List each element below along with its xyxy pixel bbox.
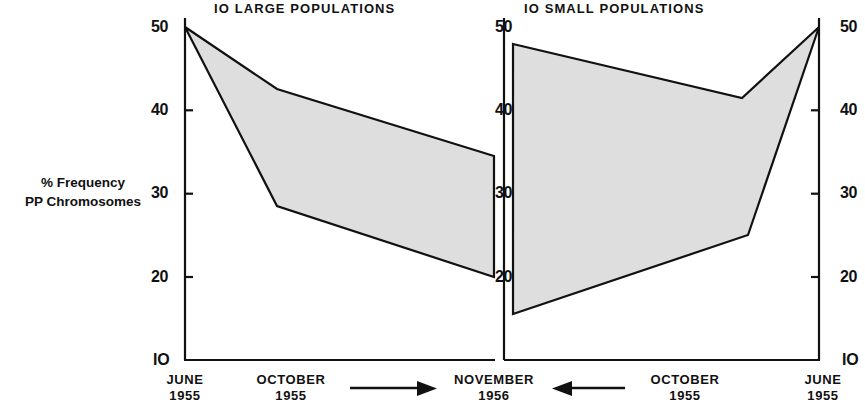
band-large-populations xyxy=(185,27,494,277)
figure-root: % FrequencyPP Chromosomes IO LARGE POPUL… xyxy=(0,0,865,419)
left-arrow-icon xyxy=(552,381,625,396)
y-axis-left-ticks xyxy=(185,110,193,277)
chart-canvas xyxy=(0,0,865,419)
y-axis-right-ticks xyxy=(811,110,819,277)
right-arrow-icon xyxy=(350,381,437,396)
band-small-populations xyxy=(513,27,819,314)
